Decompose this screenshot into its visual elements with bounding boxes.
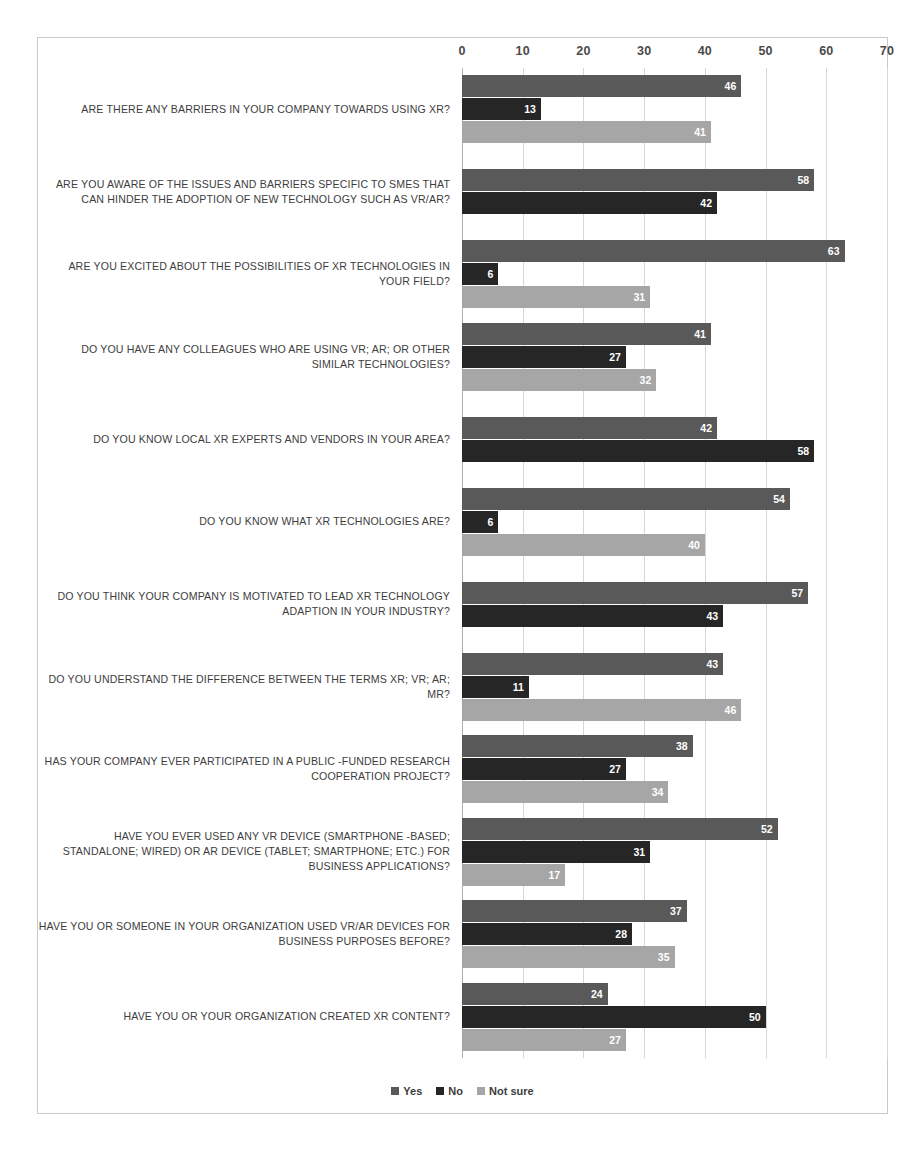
bar-no: 6	[462, 511, 498, 533]
x-axis-tick-label: 70	[880, 44, 894, 58]
chart-group: DO YOU UNDERSTAND THE DIFFERENCE BETWEEN…	[38, 646, 887, 729]
bar-not-sure: 40	[462, 534, 705, 556]
bar-yes: 57	[462, 582, 808, 604]
category-label: DO YOU THINK YOUR COMPANY IS MOTIVATED T…	[38, 589, 462, 619]
legend-swatch-icon	[436, 1087, 444, 1095]
bar-value-label: 27	[609, 352, 626, 363]
bar-no: 43	[462, 605, 723, 627]
bar-value-label: 28	[615, 929, 632, 940]
bar-yes: 58	[462, 169, 814, 191]
bar-no: 6	[462, 263, 498, 285]
bar-value-label: 34	[652, 787, 669, 798]
bar-value-label: 42	[700, 423, 717, 434]
bar-value-label: 57	[791, 588, 808, 599]
bar-value-label: 35	[658, 952, 675, 963]
bar-value-label: 58	[797, 175, 814, 186]
chart-group: DO YOU THINK YOUR COMPANY IS MOTIVATED T…	[38, 563, 887, 646]
category-label: ARE YOU AWARE OF THE ISSUES AND BARRIERS…	[38, 177, 462, 207]
x-axis-tick-label: 30	[637, 44, 651, 58]
chart-group: ARE THERE ANY BARRIERS IN YOUR COMPANY T…	[38, 68, 887, 151]
chart-group: ARE YOU AWARE OF THE ISSUES AND BARRIERS…	[38, 151, 887, 234]
bar-value-label: 42	[700, 198, 717, 209]
chart-group: HAVE YOU OR YOUR ORGANIZATION CREATED XR…	[38, 976, 887, 1059]
bar-yes: 42	[462, 417, 717, 439]
chart-group: DO YOU HAVE ANY COLLEAGUES WHO ARE USING…	[38, 316, 887, 399]
gridline	[887, 68, 888, 1058]
bar-value-label: 43	[706, 659, 723, 670]
bar-value-label: 58	[797, 446, 814, 457]
x-axis-tick-label: 10	[516, 44, 530, 58]
chart-legend: YesNoNot sure	[38, 1085, 887, 1097]
bar-track: 382734	[462, 728, 887, 811]
bar-value-label: 40	[688, 540, 705, 551]
bar-value-label: 24	[591, 989, 608, 1000]
category-label: DO YOU HAVE ANY COLLEAGUES WHO ARE USING…	[38, 342, 462, 372]
bar-yes: 24	[462, 983, 608, 1005]
bar-yes: 63	[462, 240, 845, 262]
bar-track: 412732	[462, 316, 887, 399]
x-axis-tick-label: 0	[458, 44, 465, 58]
category-label: HAVE YOU OR YOUR ORGANIZATION CREATED XR…	[38, 1009, 462, 1024]
bar-value-label: 46	[725, 81, 742, 92]
x-axis: 010203040506070	[38, 38, 887, 68]
bar-track: 372835	[462, 893, 887, 976]
bar-value-label: 52	[761, 824, 778, 835]
legend-item-yes[interactable]: Yes	[391, 1085, 422, 1097]
bar-not-sure: 41	[462, 121, 711, 143]
bar-not-sure: 32	[462, 369, 656, 391]
bar-value-label: 37	[670, 906, 687, 917]
plot-area: ARE THERE ANY BARRIERS IN YOUR COMPANY T…	[38, 68, 887, 1058]
bar-yes: 37	[462, 900, 687, 922]
bar-value-label: 43	[706, 611, 723, 622]
legend-item-not-sure[interactable]: Not sure	[477, 1085, 534, 1097]
bar-no: 27	[462, 346, 626, 368]
bar-value-label: 6	[488, 517, 499, 528]
bar-value-label: 11	[513, 682, 529, 693]
bar-track: 431146	[462, 646, 887, 729]
bar-yes: 41	[462, 323, 711, 345]
category-label: DO YOU KNOW WHAT XR TECHNOLOGIES ARE?	[38, 514, 462, 529]
legend-item-no[interactable]: No	[436, 1085, 463, 1097]
bar-track: 245027	[462, 976, 887, 1059]
chart-group: ARE YOU EXCITED ABOUT THE POSSIBILITIES …	[38, 233, 887, 316]
bar-value-label: 41	[694, 329, 711, 340]
bar-value-label: 32	[640, 375, 657, 386]
bar-not-sure: 34	[462, 781, 668, 803]
bar-no: 11	[462, 676, 529, 698]
bar-no: 58	[462, 440, 814, 462]
chart-group: HAVE YOU OR SOMEONE IN YOUR ORGANIZATION…	[38, 893, 887, 976]
bar-not-sure: 46	[462, 699, 741, 721]
bar-track: 5743	[462, 563, 887, 646]
x-axis-tick-label: 60	[819, 44, 833, 58]
category-label: DO YOU KNOW LOCAL XR EXPERTS AND VENDORS…	[38, 432, 462, 447]
legend-label: Not sure	[489, 1085, 534, 1097]
bar-value-label: 17	[549, 870, 566, 881]
x-axis-tick-label: 50	[758, 44, 772, 58]
bar-value-label: 13	[524, 104, 541, 115]
bar-value-label: 6	[488, 269, 499, 280]
bar-yes: 38	[462, 735, 693, 757]
bar-value-label: 27	[609, 1035, 626, 1046]
x-axis-tick-label: 20	[576, 44, 590, 58]
chart-group: DO YOU KNOW LOCAL XR EXPERTS AND VENDORS…	[38, 398, 887, 481]
legend-label: No	[448, 1085, 463, 1097]
x-axis-tick-label: 40	[698, 44, 712, 58]
bar-value-label: 63	[828, 246, 845, 257]
category-label: ARE YOU EXCITED ABOUT THE POSSIBILITIES …	[38, 259, 462, 289]
bar-not-sure: 35	[462, 946, 675, 968]
bar-value-label: 38	[676, 741, 693, 752]
bar-no: 28	[462, 923, 632, 945]
bar-yes: 46	[462, 75, 741, 97]
legend-swatch-icon	[391, 1087, 399, 1095]
bar-no: 42	[462, 192, 717, 214]
bar-yes: 52	[462, 818, 778, 840]
category-label: HAVE YOU EVER USED ANY VR DEVICE (SMARTP…	[38, 829, 462, 874]
bar-value-label: 31	[634, 847, 651, 858]
chart-group: HAVE YOU EVER USED ANY VR DEVICE (SMARTP…	[38, 811, 887, 894]
bar-not-sure: 31	[462, 286, 650, 308]
bar-yes: 43	[462, 653, 723, 675]
legend-swatch-icon	[477, 1087, 485, 1095]
category-label: DO YOU UNDERSTAND THE DIFFERENCE BETWEEN…	[38, 672, 462, 702]
category-label: HAVE YOU OR SOMEONE IN YOUR ORGANIZATION…	[38, 919, 462, 949]
legend-label: Yes	[403, 1085, 422, 1097]
